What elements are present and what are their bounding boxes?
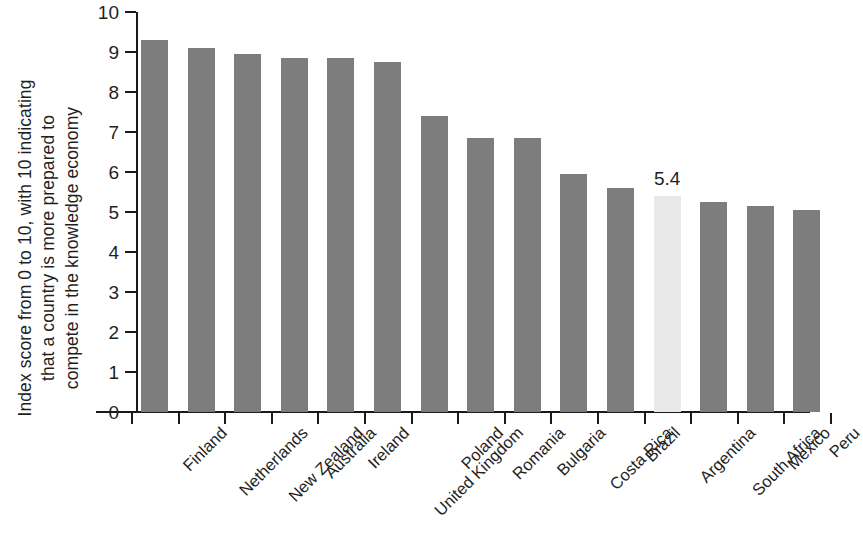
y-axis-tick-label: 6 xyxy=(93,163,119,182)
bar-poland xyxy=(421,116,448,412)
y-axis-title-line-1: Index score from 0 to 10, with 10 indica… xyxy=(14,79,37,416)
x-axis-tick xyxy=(457,413,459,424)
x-axis-tick xyxy=(644,413,646,424)
bar-bulgaria xyxy=(514,138,541,412)
bar-costa-rica xyxy=(560,174,587,412)
y-axis-tick-label: 7 xyxy=(93,123,119,142)
x-axis-tick xyxy=(411,413,413,424)
x-axis-tick xyxy=(178,413,180,424)
y-axis-tick-label: 10 xyxy=(93,3,119,22)
y-axis-tick xyxy=(125,131,136,133)
y-axis-tick-label: 3 xyxy=(93,283,119,302)
y-axis-tick xyxy=(125,211,136,213)
x-axis-tick xyxy=(224,413,226,424)
y-axis-title-line-3: compete in the knowledge economy xyxy=(61,107,84,389)
x-axis-tick xyxy=(597,413,599,424)
y-axis-tick-label: 0 xyxy=(93,403,119,422)
x-axis-label-peru: Peru xyxy=(826,424,862,460)
x-axis-tick xyxy=(550,413,552,424)
x-axis-tick xyxy=(271,413,273,424)
y-axis-tick xyxy=(125,251,136,253)
y-axis-tick xyxy=(125,91,136,93)
bar-peru xyxy=(793,210,820,412)
bar-ireland xyxy=(327,58,354,412)
x-axis-tick xyxy=(783,413,785,424)
bar-argentina xyxy=(654,196,681,412)
bar-south-africa xyxy=(700,202,727,412)
y-axis-tick-label: 9 xyxy=(93,43,119,62)
x-axis-tick xyxy=(737,413,739,424)
y-axis-tick xyxy=(125,371,136,373)
bar-netherlands xyxy=(188,48,215,412)
x-axis-tick xyxy=(131,413,133,424)
y-axis-tick xyxy=(125,171,136,173)
x-axis-label-brazil: Brazil xyxy=(642,424,683,465)
y-axis-tick-label: 5 xyxy=(93,203,119,222)
y-axis-title: Index score from 0 to 10, with 10 indica… xyxy=(13,33,85,463)
y-axis-tick xyxy=(125,331,136,333)
x-axis-label-argentina: Argentina xyxy=(697,424,759,486)
x-axis-tick xyxy=(317,413,319,424)
y-axis-title-line-2: that a country is more prepared to xyxy=(37,115,60,381)
bar-brazil xyxy=(607,188,634,412)
bar-australia xyxy=(281,58,308,412)
bar-finland xyxy=(141,40,168,412)
y-axis-tick xyxy=(125,51,136,53)
y-axis-tick-label: 4 xyxy=(93,243,119,262)
x-axis-tick xyxy=(690,413,692,424)
y-axis-tick xyxy=(125,291,136,293)
bar-new-zealand xyxy=(234,54,261,412)
x-axis-label-finland: Finland xyxy=(179,424,229,474)
y-axis-tick-label: 1 xyxy=(93,363,119,382)
bar-romania xyxy=(467,138,494,412)
y-axis-tick-label: 8 xyxy=(93,83,119,102)
bar-united-kingdom xyxy=(374,62,401,412)
bar-value-label-argentina: 5.4 xyxy=(637,169,697,188)
y-axis-line xyxy=(136,12,138,413)
y-axis-tick-label: 2 xyxy=(93,323,119,342)
bar-mexico xyxy=(747,206,774,412)
x-axis-tick xyxy=(504,413,506,424)
y-axis-tick xyxy=(125,11,136,13)
x-axis-tick xyxy=(830,413,832,424)
